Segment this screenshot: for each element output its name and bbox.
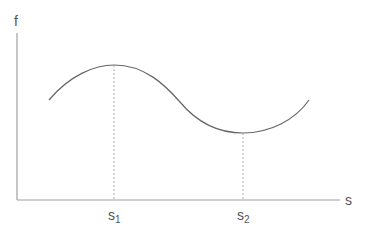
x-axis-label: s (345, 193, 352, 207)
s2-main: s (237, 207, 244, 223)
s1-tick-label: s1 (108, 208, 121, 225)
s1-subscript: 1 (115, 214, 121, 225)
s2-subscript: 2 (244, 214, 250, 225)
function-curve (49, 65, 309, 133)
plot-svg (0, 0, 370, 229)
s2-tick-label: s2 (237, 208, 250, 225)
diagram-canvas: f s s1 s2 (0, 0, 370, 229)
y-axis-label: f (14, 14, 18, 28)
s1-main: s (108, 207, 115, 223)
